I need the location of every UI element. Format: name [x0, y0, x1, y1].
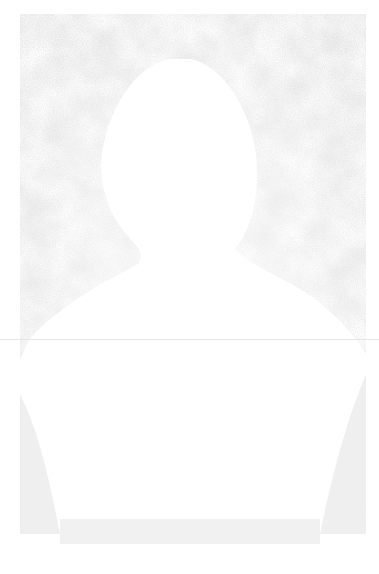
portrait-svg — [20, 14, 366, 559]
portrait-scan — [20, 14, 366, 559]
horizontal-rule — [0, 339, 379, 340]
